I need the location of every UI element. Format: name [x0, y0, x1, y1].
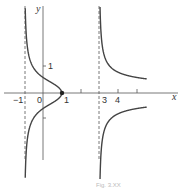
x-tick-label: 4	[115, 95, 120, 105]
y-tick-label: 1	[48, 61, 53, 71]
y-axis-label: y	[35, 3, 41, 14]
x-ticks	[81, 89, 137, 93]
x-tick-label: 0	[37, 95, 42, 105]
x-tick-label: 1	[64, 95, 69, 105]
x-tick-label: 3	[102, 95, 107, 105]
caption: Fig. 3.XX	[96, 182, 121, 188]
x-axis-label: x	[171, 91, 177, 102]
graph: y x −1 0 1 3 4 1 Fig. 3.XX	[0, 0, 188, 190]
y-ticks	[43, 66, 46, 118]
x-tick-label: −1	[13, 95, 23, 105]
